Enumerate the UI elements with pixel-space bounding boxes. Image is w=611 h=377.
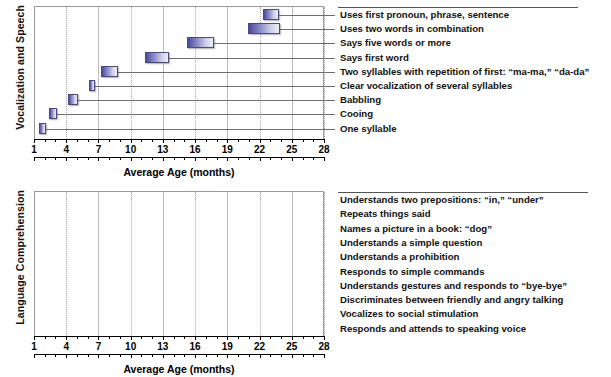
major-tick-25 xyxy=(292,336,293,340)
milestone-label: Cooing xyxy=(340,109,373,119)
gridline-4 xyxy=(66,7,68,139)
minor-tick-3 xyxy=(55,336,56,339)
minor-tick-23 xyxy=(270,336,271,339)
x-tick-label: 4 xyxy=(55,144,77,155)
minor-tick-3 xyxy=(55,139,56,142)
x-tick-label: 22 xyxy=(249,341,271,352)
milestone-label: One syllable xyxy=(340,124,397,134)
gridline-10 xyxy=(131,192,133,336)
milestone-label: Uses two words in combination xyxy=(340,24,484,34)
x-tick-label: 22 xyxy=(249,144,271,155)
major-tick-4 xyxy=(66,336,67,340)
milestone-label: Says first word xyxy=(340,53,409,63)
minor-tick-24 xyxy=(281,139,282,142)
major-tick-1 xyxy=(34,336,35,340)
gridline-19 xyxy=(227,7,228,139)
leader-line xyxy=(280,29,335,30)
minor-tick-24 xyxy=(281,336,282,339)
x-tick-label: 13 xyxy=(152,341,174,352)
milestone-label: Understands a simple question xyxy=(340,238,482,248)
y-axis-title-top: Vocalization and Speech xyxy=(0,5,18,155)
x-tick-label: 19 xyxy=(216,144,238,155)
milestone-label: Understands a prohibition xyxy=(340,252,459,262)
major-tick-28 xyxy=(324,157,325,161)
minor-tick-2 xyxy=(45,139,46,142)
panel-language-comprehension: Language Comprehension Understands two p… xyxy=(0,186,611,377)
minor-tick-15 xyxy=(184,139,185,142)
major-tick-19 xyxy=(227,139,228,143)
major-tick-25 xyxy=(292,139,293,143)
major-tick-22 xyxy=(260,336,261,340)
range-bar xyxy=(101,66,118,77)
x-tick-label: 1 xyxy=(23,341,45,352)
major-tick-10 xyxy=(131,139,132,143)
gridline-7 xyxy=(98,192,99,336)
major-tick-4 xyxy=(66,139,67,143)
minor-tick-14 xyxy=(174,336,175,339)
minor-tick-23 xyxy=(270,139,271,142)
range-bar xyxy=(187,37,215,48)
milestone-label: Uses first pronoun, phrase, sentence xyxy=(340,10,509,20)
x-tick-label: 28 xyxy=(313,341,335,352)
label-column-rule-top xyxy=(338,7,578,8)
x-tick-label: 16 xyxy=(184,144,206,155)
x-axis-bottom: 14710131619222528 Average Age (months) xyxy=(34,336,324,370)
x-tick-label: 19 xyxy=(216,341,238,352)
leader-line xyxy=(46,129,335,130)
x-tick-label: 7 xyxy=(87,144,109,155)
milestone-label: Responds to simple commands xyxy=(340,267,484,277)
minor-tick-9 xyxy=(120,336,121,339)
gridline-28 xyxy=(324,192,326,336)
range-bar xyxy=(49,108,57,119)
major-tick-16 xyxy=(195,139,196,143)
minor-tick-18 xyxy=(217,139,218,142)
gridline-22 xyxy=(260,192,262,336)
leader-line xyxy=(78,100,335,101)
minor-tick-6 xyxy=(88,336,89,339)
x-tick-label: 1 xyxy=(23,144,45,155)
major-tick-7 xyxy=(98,336,99,340)
x-tick-label: 10 xyxy=(120,341,142,352)
x-tick-label: 13 xyxy=(152,144,174,155)
minor-tick-2 xyxy=(45,336,46,339)
x-axis-line2-bottom xyxy=(34,354,324,355)
major-tick-1 xyxy=(34,139,35,143)
range-bar xyxy=(145,52,170,63)
panel-vocalization-and-speech: Vocalization and Speech Uses first prono… xyxy=(0,0,611,180)
gridline-13 xyxy=(163,7,164,139)
x-tick-label: 16 xyxy=(184,341,206,352)
minor-tick-11 xyxy=(141,139,142,142)
major-tick-13 xyxy=(163,139,164,143)
milestone-label: Understands two prepositions: “in,” “und… xyxy=(340,195,544,205)
range-bar xyxy=(68,94,78,105)
gridline-19 xyxy=(227,192,228,336)
minor-tick-26 xyxy=(303,139,304,142)
x-tick-label: 10 xyxy=(120,144,142,155)
gridline-16 xyxy=(195,7,197,139)
minor-tick-6 xyxy=(88,139,89,142)
minor-tick-12 xyxy=(152,139,153,142)
major-tick-22 xyxy=(260,139,261,143)
plot-area-bottom xyxy=(34,191,324,336)
minor-tick-27 xyxy=(313,336,314,339)
minor-tick-14 xyxy=(174,139,175,142)
minor-tick-5 xyxy=(77,139,78,142)
gridline-4 xyxy=(66,192,68,336)
x-tick-label: 4 xyxy=(55,341,77,352)
milestone-label: Understands gestures and responds to “by… xyxy=(340,281,567,291)
gridline-10 xyxy=(131,7,133,139)
minor-tick-17 xyxy=(206,336,207,339)
x-axis-title-top: Average Age (months) xyxy=(34,166,324,178)
major-tick-10 xyxy=(131,336,132,340)
milestone-label: Discriminates between friendly and angry… xyxy=(340,295,563,305)
minor-tick-20 xyxy=(238,336,239,339)
minor-tick-27 xyxy=(313,139,314,142)
range-bar xyxy=(263,9,279,20)
minor-tick-15 xyxy=(184,336,185,339)
milestone-label: Says five words or more xyxy=(340,38,451,48)
major-tick-28 xyxy=(324,336,325,340)
y-axis-title-bottom: Language Comprehension xyxy=(0,190,18,350)
x-tick-label: 25 xyxy=(281,341,303,352)
range-bar xyxy=(39,123,45,134)
milestone-label: Babbling xyxy=(340,95,381,105)
